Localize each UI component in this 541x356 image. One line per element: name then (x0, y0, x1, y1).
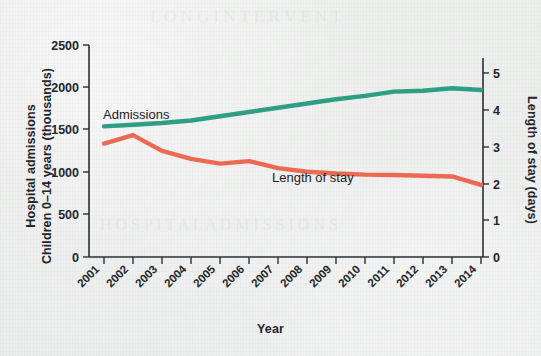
y2-tick-label-3: 3 (493, 141, 500, 155)
x-axis-title: Year (0, 322, 541, 336)
x-tick-label-2004: 2004 (162, 263, 189, 290)
x-tick-label-2009: 2009 (307, 263, 334, 290)
series-annotation-admissions: Admissions (103, 107, 170, 122)
x-tick-label-2001: 2001 (75, 263, 102, 290)
y-axis-left-title-line1: Hospital admissions (23, 51, 39, 281)
x-tick-label-2003: 2003 (133, 263, 160, 290)
y2-tick-label-5: 5 (493, 67, 500, 81)
y-axis-left-title: Hospital admissions Children 0–14 years … (23, 51, 55, 281)
y-axis-right: 5 4 3 2 1 0 (483, 58, 500, 265)
y2-tick-label-0: 0 (493, 251, 500, 265)
series-annotation-length-of-stay: Length of stay (272, 170, 354, 185)
x-tick-label-2011: 2011 (365, 263, 392, 290)
x-tick-label-2010: 2010 (336, 263, 363, 290)
y-tick-label-500: 500 (58, 208, 79, 222)
chart-plot-area: 2500 2000 1500 1000 500 0 5 4 3 2 1 0 (0, 0, 541, 356)
y2-tick-label-1: 1 (493, 214, 500, 228)
y-tick-label-0: 0 (72, 251, 79, 265)
y2-tick-label-2: 2 (493, 178, 500, 192)
x-tick-marks (104, 257, 481, 264)
y-axis-right-title: Length of stay (days) (524, 60, 540, 260)
x-tick-label-2002: 2002 (104, 263, 131, 290)
y2-tick-label-4: 4 (493, 104, 500, 118)
y-axis-left: 2500 2000 1500 1000 500 0 (51, 39, 89, 265)
x-axis: 2001 2002 2003 2004 2005 2006 2007 2008 … (75, 257, 483, 290)
x-tick-label-2014: 2014 (452, 263, 479, 290)
x-tick-label-2013: 2013 (423, 263, 450, 290)
y-axis-left-title-line2: Children 0–14 years (thousands) (39, 51, 55, 281)
x-tick-label-2005: 2005 (191, 263, 218, 290)
x-tick-label-2007: 2007 (249, 263, 276, 290)
y-tick-label-2000: 2000 (51, 81, 79, 95)
chart-figure: L O N G I N T E R V E N T H O S P I T A … (0, 0, 541, 356)
y-tick-label-1500: 1500 (51, 123, 79, 137)
y-tick-label-2500: 2500 (51, 39, 79, 53)
y-tick-label-1000: 1000 (51, 166, 79, 180)
x-tick-label-2012: 2012 (394, 263, 421, 290)
x-tick-label-2008: 2008 (278, 263, 305, 290)
x-tick-label-2006: 2006 (220, 263, 247, 290)
